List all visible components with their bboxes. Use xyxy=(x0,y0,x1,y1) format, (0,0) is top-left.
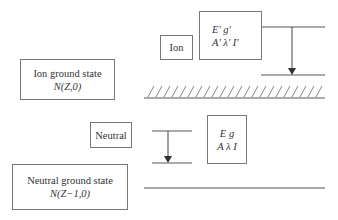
ion-level-params-line2: A′ λ′ I′ xyxy=(212,36,239,49)
ion-level-params-box: E′ g′ A′ λ′ I′ xyxy=(199,11,262,60)
neutral-ground-state-box: Neutral ground state N(Z−1,0) xyxy=(12,164,128,210)
ion-ground-state-label: Ion ground state xyxy=(33,67,101,80)
ion-box: Ion xyxy=(160,35,193,60)
ion-ground-state-formula: N(Z,0) xyxy=(54,80,82,93)
neutral-label: Neutral xyxy=(95,129,127,142)
neutral-level-params-box: E g A λ I xyxy=(207,115,247,164)
ion-level-params-line1: E′ g′ xyxy=(212,23,231,36)
ion-label: Ion xyxy=(170,41,184,54)
ionization-limit-hatching xyxy=(148,86,322,97)
neutral-ground-state-label: Neutral ground state xyxy=(27,174,113,187)
neutral-level-params-line1: E g xyxy=(220,127,234,140)
ion-ground-state-box: Ion ground state N(Z,0) xyxy=(20,59,115,100)
ion-arrowhead-icon xyxy=(288,68,296,75)
neutral-arrowhead-icon xyxy=(164,156,172,163)
neutral-level-params-line2: A λ I xyxy=(217,140,237,153)
neutral-box: Neutral xyxy=(90,122,132,148)
neutral-ground-state-formula: N(Z−1,0) xyxy=(50,187,90,200)
